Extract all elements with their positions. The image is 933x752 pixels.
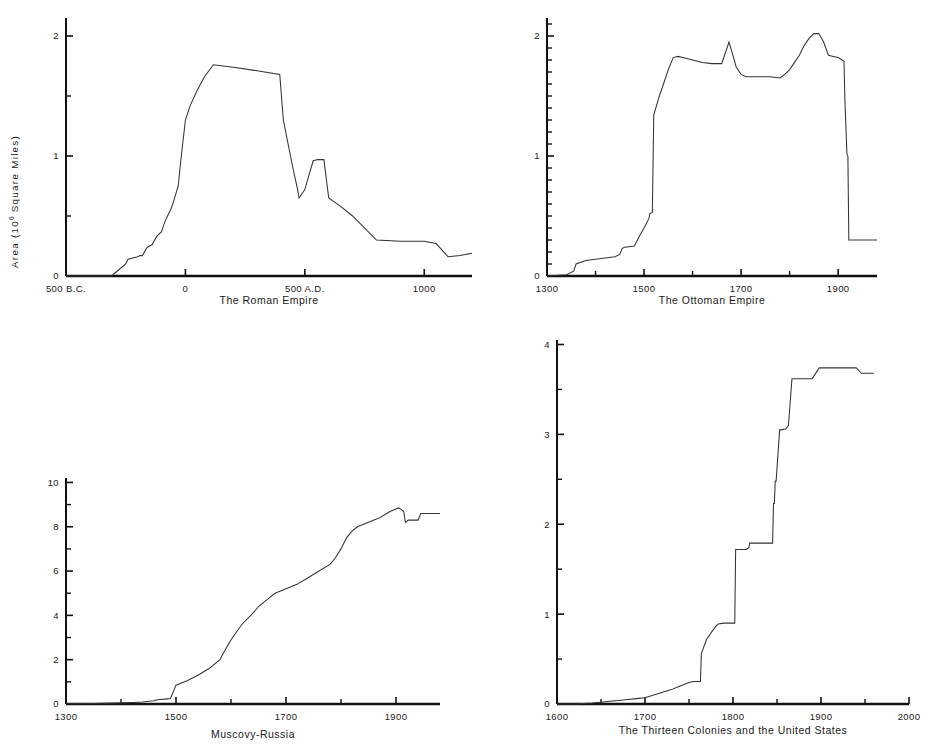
shared-y-axis-label: Area (106 Square Miles) bbox=[2, 48, 22, 268]
y-tick-label: 0 bbox=[544, 698, 550, 709]
chart-svg-roman: 012500 B.C.0500 A.D.1000The Roman Empire bbox=[20, 4, 480, 314]
x-tick-label: 2000 bbox=[898, 711, 921, 722]
y-tick-label: 3 bbox=[544, 429, 550, 440]
x-tick-label: 1300 bbox=[55, 711, 78, 722]
y-tick-label: 10 bbox=[48, 477, 59, 488]
series-line-us bbox=[557, 368, 874, 704]
y-tick-label: 1 bbox=[53, 150, 59, 161]
empire-area-figure: Area (106 Square Miles) 012500 B.C.0500 … bbox=[0, 0, 933, 752]
y-axis-label-suffix: Square Miles) bbox=[9, 135, 20, 216]
y-tick-label: 1 bbox=[534, 150, 540, 161]
y-tick-label: 4 bbox=[544, 339, 550, 350]
y-tick-label: 2 bbox=[53, 654, 59, 665]
panel-title-us: The Thirteen Colonies and the United Sta… bbox=[619, 724, 848, 736]
x-tick-label: 1800 bbox=[722, 711, 745, 722]
panel-title-ottoman: The Ottoman Empire bbox=[659, 294, 765, 306]
y-axis-label-prefix: Area (10 bbox=[9, 220, 20, 268]
x-tick-label: 500 A.D. bbox=[285, 283, 325, 294]
x-tick-label: 1300 bbox=[536, 283, 559, 294]
y-tick-label: 2 bbox=[544, 519, 550, 530]
chart-panel-ottoman: 0121300150017001900The Ottoman Empire bbox=[505, 4, 925, 314]
y-tick-label: 8 bbox=[53, 521, 59, 532]
x-tick-label: 1000 bbox=[413, 283, 436, 294]
y-tick-label: 6 bbox=[53, 565, 59, 576]
x-tick-label: 1700 bbox=[730, 283, 753, 294]
x-tick-label: 1500 bbox=[633, 283, 656, 294]
series-line-roman bbox=[66, 65, 472, 276]
y-tick-label: 1 bbox=[544, 609, 550, 620]
x-tick-label: 1900 bbox=[827, 283, 850, 294]
chart-panel-russia: 02468101300150017001900Muscovy-Russia bbox=[20, 448, 480, 748]
panel-title-roman: The Roman Empire bbox=[219, 294, 318, 306]
x-tick-label: 1700 bbox=[275, 711, 298, 722]
y-tick-label: 0 bbox=[53, 270, 59, 281]
series-line-ottoman bbox=[547, 34, 877, 276]
chart-panel-roman: 012500 B.C.0500 A.D.1000The Roman Empire bbox=[20, 4, 480, 314]
y-tick-label: 0 bbox=[53, 698, 59, 709]
x-tick-label: 1500 bbox=[165, 711, 188, 722]
y-tick-label: 4 bbox=[53, 610, 59, 621]
x-tick-label: 1900 bbox=[385, 711, 408, 722]
y-tick-label: 2 bbox=[534, 30, 540, 41]
y-axis-label-exponent: 6 bbox=[8, 216, 15, 220]
chart-panel-us: 0123416001700180019002000The Thirteen Co… bbox=[505, 318, 925, 748]
y-tick-label: 2 bbox=[53, 30, 59, 41]
y-tick-label: 0 bbox=[534, 270, 540, 281]
chart-svg-ottoman: 0121300150017001900The Ottoman Empire bbox=[505, 4, 925, 314]
panel-title-russia: Muscovy-Russia bbox=[211, 728, 295, 740]
x-tick-label: 1900 bbox=[810, 711, 833, 722]
x-tick-label: 1600 bbox=[546, 711, 569, 722]
x-tick-label: 1700 bbox=[634, 711, 657, 722]
chart-svg-us: 0123416001700180019002000The Thirteen Co… bbox=[505, 318, 925, 748]
x-tick-label: 500 B.C. bbox=[46, 283, 86, 294]
series-line-russia bbox=[66, 508, 440, 704]
x-tick-label: 0 bbox=[183, 283, 189, 294]
chart-svg-russia: 02468101300150017001900Muscovy-Russia bbox=[20, 448, 480, 748]
